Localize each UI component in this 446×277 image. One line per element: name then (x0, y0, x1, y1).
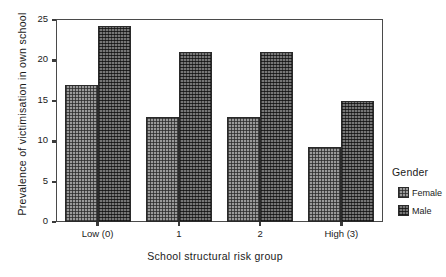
female-swatch-icon (398, 187, 409, 198)
y-tick-mark (52, 140, 56, 142)
bar-female-0 (65, 85, 98, 222)
bar-male-2 (260, 52, 293, 222)
legend-label-male: Male (412, 206, 432, 216)
legend-label-female: Female (412, 188, 442, 198)
y-tick-label: 25 (37, 13, 48, 24)
legend: Gender Female Male (392, 166, 446, 223)
y-tick-mark (52, 100, 56, 102)
x-tick-mark (96, 222, 98, 226)
x-tick-label: High (3) (324, 228, 358, 239)
bar-male-1 (179, 52, 212, 222)
bar-chart: Prevalence of victimisation in own schoo… (0, 0, 446, 277)
x-tick-label: 2 (257, 228, 262, 239)
x-tick-label: 1 (176, 228, 181, 239)
y-tick-label: 5 (43, 175, 48, 186)
bar-male-3 (341, 101, 374, 222)
y-axis-title: Prevalence of victimisation in own schoo… (16, 0, 28, 229)
x-tick-mark (259, 222, 261, 226)
bar-female-2 (227, 117, 260, 222)
y-tick-mark (52, 181, 56, 183)
x-tick-mark (178, 222, 180, 226)
y-tick-label: 20 (37, 53, 48, 64)
bar-male-0 (98, 26, 131, 222)
y-tick-mark (52, 59, 56, 61)
x-tick-mark (340, 222, 342, 226)
y-tick-label: 10 (37, 134, 48, 145)
legend-title: Gender (392, 166, 446, 178)
x-axis-title: School structural risk group (45, 250, 385, 262)
y-tick-label: 15 (37, 94, 48, 105)
bar-female-1 (146, 117, 179, 222)
bar-female-3 (308, 147, 341, 222)
y-tick-mark (52, 221, 56, 223)
legend-item-female[interactable]: Female (398, 187, 446, 198)
y-tick-mark (52, 19, 56, 21)
plot-area (57, 20, 382, 222)
legend-item-male[interactable]: Male (398, 205, 446, 216)
x-tick-label: Low (0) (82, 228, 114, 239)
male-swatch-icon (398, 205, 409, 216)
y-tick-label: 0 (43, 215, 48, 226)
